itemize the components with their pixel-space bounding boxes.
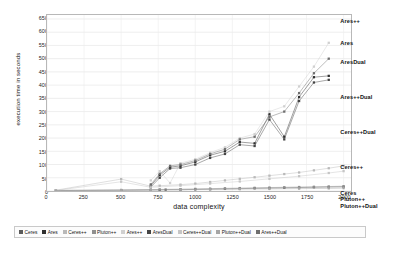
legend-item-ceresppdual[interactable]: Ceres++Dual [178, 230, 212, 235]
series-annotation: Ares++Dual [340, 94, 372, 100]
legend-label: Ceres++Dual [183, 230, 211, 235]
data-point [283, 173, 285, 175]
series-line [151, 43, 329, 183]
data-point [150, 186, 152, 188]
legend-swatch-icon [19, 230, 23, 234]
legend-label: AresDual [153, 230, 173, 235]
data-point [209, 153, 211, 155]
data-point [283, 186, 285, 188]
data-series-layer [47, 15, 351, 191]
data-point [150, 189, 152, 191]
x-axis-label: data complexity [46, 203, 352, 210]
data-point [328, 187, 330, 189]
legend-swatch-icon [42, 230, 46, 234]
y-tick-label: 300 [8, 109, 48, 115]
legend-swatch-icon [63, 230, 67, 234]
legend-swatch-icon [216, 230, 220, 234]
data-point [169, 182, 171, 184]
y-tick-label: 50 [8, 176, 48, 182]
data-point [283, 110, 285, 112]
data-point [239, 138, 241, 140]
data-point [298, 175, 300, 177]
y-tick-label: 100 [8, 162, 48, 168]
data-point [120, 181, 122, 183]
data-point [298, 85, 300, 87]
data-point [313, 72, 315, 74]
data-point [239, 178, 241, 180]
y-tick-label: 500 [8, 55, 48, 61]
chart-screenshot: execution time in seconds 05010015020025… [0, 0, 404, 255]
legend-item-arespp[interactable]: Ares++ [121, 230, 142, 235]
data-point [159, 170, 161, 172]
data-point [239, 180, 241, 182]
plot-area [46, 14, 352, 192]
legend-item-plutonppdual[interactable]: Pluton++Dual [216, 230, 251, 235]
data-point [313, 65, 315, 67]
chart-legend: CeresAresCeres++Pluton++Ares++AresDualCe… [14, 226, 366, 238]
y-tick-label: 550 [8, 42, 48, 48]
data-point [298, 96, 300, 98]
x-tick-label: 1250 [213, 194, 253, 200]
legend-swatch-icon [147, 230, 151, 234]
data-point [283, 105, 285, 107]
data-point [283, 138, 285, 140]
data-point [313, 81, 315, 83]
legend-item-aresdual[interactable]: AresDual [147, 230, 172, 235]
data-point [224, 179, 226, 181]
data-point [224, 148, 226, 150]
data-point [209, 188, 211, 190]
legend-swatch-icon [178, 230, 182, 234]
series-annotation: Ceres [340, 190, 356, 196]
data-point [268, 188, 270, 190]
data-point [313, 186, 315, 188]
data-point [209, 182, 211, 184]
legend-label: Pluton++ [97, 230, 116, 235]
legend-item-cerespp[interactable]: Ceres++ [63, 230, 87, 235]
x-tick-label: 1500 [250, 194, 290, 200]
data-point [169, 165, 171, 167]
data-point [224, 153, 226, 155]
y-tick-label: 450 [8, 69, 48, 75]
y-tick-label: 600 [8, 28, 48, 34]
series-annotation: Pluton++ [340, 196, 365, 202]
data-point [224, 150, 226, 152]
data-point [313, 76, 315, 78]
legend-swatch-icon [256, 230, 260, 234]
series-line [151, 80, 329, 187]
data-point [328, 172, 330, 174]
y-tick-label: 250 [8, 122, 48, 128]
legend-item-plutonpp[interactable]: Pluton++ [92, 230, 117, 235]
y-tick-label: 650 [8, 15, 48, 21]
data-point [268, 110, 270, 112]
legend-swatch-icon [121, 230, 125, 234]
legend-item-ceres[interactable]: Ceres [19, 230, 37, 235]
series-line [151, 59, 329, 185]
legend-item-aresppdual[interactable]: Ares++Dual [256, 230, 287, 235]
data-point [209, 157, 211, 159]
data-point [328, 42, 330, 44]
data-point [253, 133, 255, 135]
data-point [268, 178, 270, 180]
data-point [298, 92, 300, 94]
x-tick-label: 1000 [175, 194, 215, 200]
legend-swatch-icon [92, 230, 96, 234]
data-point [159, 188, 161, 190]
y-tick-label: 400 [8, 82, 48, 88]
legend-item-ares[interactable]: Ares [42, 230, 57, 235]
data-point [328, 58, 330, 60]
data-point [159, 177, 161, 179]
data-point [169, 167, 171, 169]
y-tick-label: 350 [8, 95, 48, 101]
legend-label: Ceres++ [68, 230, 86, 235]
x-tick-label: 250 [63, 194, 103, 200]
data-point [239, 188, 241, 190]
data-point [253, 187, 255, 189]
legend-label: Ceres [25, 230, 38, 235]
data-point [253, 136, 255, 138]
data-point [268, 113, 270, 115]
data-point [253, 176, 255, 178]
series-annotation: AresDual [340, 59, 365, 65]
x-tick-label: 0 [26, 194, 66, 200]
data-point [179, 167, 181, 169]
series-annotation: Ares [340, 40, 353, 46]
